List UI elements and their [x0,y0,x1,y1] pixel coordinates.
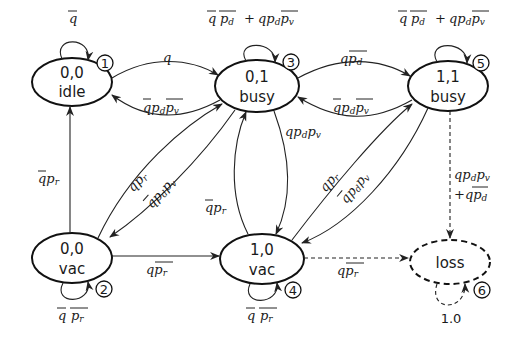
label-3-1: qpdpv [143,99,183,116]
node-3-state: 0,1 [245,68,269,86]
state-number-4: 4 [285,282,301,298]
label-2-3: qpr [124,168,150,195]
label-2-1: qpr [38,171,60,187]
state-number-6: 6 [474,282,490,298]
label-loop-5: q pd + qpdpv [398,11,489,27]
node-4-state: 1,0 [250,241,274,259]
node-4-mode: vac [249,261,275,279]
svg-text:4: 4 [289,283,297,298]
node-6-loss: loss [410,240,490,284]
node-5-state: 1,1 [436,68,460,86]
svg-text:qpdpv: qpdpv [337,169,372,207]
node-3-mode: busy [239,88,275,106]
svg-text:pd: pd [220,11,234,27]
node-1-state: 0,0 [60,64,84,82]
svg-text:qpdpv: qpdpv [143,100,179,116]
node-6-state: loss [436,254,465,272]
self-loop-6 [436,284,465,305]
svg-text:qpdpv: qpdpv [333,100,369,116]
node-2-vac: 0,0 vac [32,233,112,283]
label-loop-1: q [68,11,77,26]
self-loop-2 [61,282,88,299]
svg-text:+: + [244,11,255,26]
svg-text:3: 3 [287,55,295,70]
label-loop-6: 1.0 [441,311,462,326]
label-3-4-top: qpdpv [285,124,321,140]
label-5-3: qpdpv [333,99,373,116]
svg-text:6: 6 [478,283,486,298]
svg-text:5: 5 [477,56,485,71]
edge-2-to-3 [98,104,222,238]
svg-text:+: + [435,11,446,26]
label-3-5: qpd [340,51,367,67]
svg-text:2: 2 [100,282,108,297]
label-loop-2: qpr [57,308,88,324]
svg-text:qpr: qpr [205,200,227,216]
svg-text:qpdpv: qpdpv [449,11,485,27]
svg-text:qpr: qpr [38,171,60,187]
svg-text:qpr: qpr [316,168,342,195]
edge-3-to-2 [110,110,235,237]
svg-text:qpd: qpd [340,51,363,67]
node-1-mode: idle [58,83,85,101]
svg-text:q: q [399,11,407,26]
label-4-6: qpr [337,263,364,279]
state-number-3: 3 [283,54,299,70]
label-5-6: qpdpv +qpd [454,167,490,203]
node-2-mode: vac [59,260,85,278]
label-5-4: qpdpv [337,169,372,207]
svg-text:qpdpv: qpdpv [258,11,294,27]
state-diagram: 0,0 idle 0,1 busy 1,1 busy 0,0 vac 1,0 v… [0,0,528,346]
node-5-mode: busy [430,88,466,106]
node-2-state: 0,0 [60,240,84,258]
self-loop-4 [248,283,277,300]
state-number-1: 1 [97,55,113,71]
state-number-2: 2 [96,281,112,297]
svg-text:q: q [208,11,216,26]
svg-text:q: q [69,11,77,26]
svg-text:qpdpv: qpdpv [454,167,490,183]
svg-text:qpr: qpr [124,168,150,195]
label-loop-4: qpr [246,308,277,324]
svg-text:q: q [58,308,66,323]
node-4-vac: 1,0 vac [220,234,304,284]
svg-text:qpr: qpr [146,262,168,278]
svg-text:1: 1 [101,56,109,71]
label-2-4: qpr [146,262,173,278]
svg-text:pr: pr [71,308,84,324]
svg-text:+qpd: +qpd [454,187,488,203]
label-loop-3: q pd + qpdpv [207,11,298,27]
svg-text:pd: pd [411,11,425,27]
edge-4-to-3 [234,112,248,234]
label-4-5: qpr [316,168,342,195]
label-1-3: q [163,50,171,65]
svg-text:qpr: qpr [337,263,359,279]
svg-text:q: q [247,308,255,323]
label-4-3: qpr [205,200,227,216]
svg-text:pr: pr [260,308,273,324]
state-number-5: 5 [473,55,489,71]
